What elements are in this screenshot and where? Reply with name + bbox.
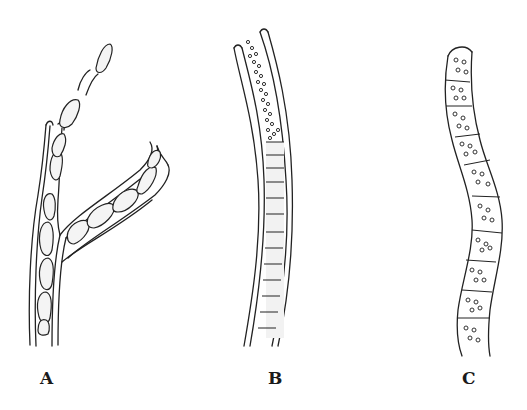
panel-a-drawing: [29, 44, 169, 346]
panel-b-cells: [258, 142, 284, 338]
panel-label-b: B: [268, 368, 282, 388]
panel-b-drawing: [234, 29, 292, 346]
panel-label-c: C: [462, 368, 476, 388]
panel-c-drawing: [445, 47, 502, 356]
panel-label-a: A: [40, 368, 53, 388]
figure-illustration: [0, 0, 527, 410]
